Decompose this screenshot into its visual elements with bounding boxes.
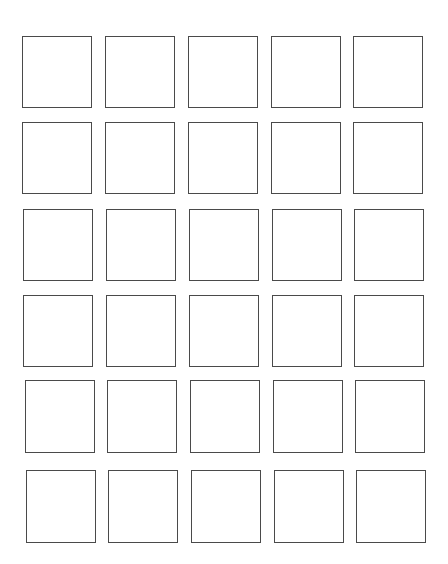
grid-cell [105,36,175,108]
grid-cell [188,122,258,194]
grid-cell [273,380,343,453]
grid-cell [353,122,423,194]
square-grid [0,0,448,564]
grid-cell [354,295,424,367]
grid-cell [22,36,92,108]
grid-cell [274,470,344,543]
grid-cell [107,380,177,453]
grid-cell [356,470,426,543]
grid-cell [189,209,259,281]
grid-cell [23,295,93,367]
grid-cell [25,380,95,453]
grid-cell [355,380,425,453]
grid-cell [354,209,424,281]
grid-cell [271,36,341,108]
grid-cell [23,209,93,281]
grid-cell [188,36,258,108]
grid-cell [353,36,423,108]
grid-cell [191,470,261,543]
grid-cell [22,122,92,194]
grid-cell [272,295,342,367]
grid-cell [190,380,260,453]
grid-cell [105,122,175,194]
grid-cell [272,209,342,281]
grid-cell [271,122,341,194]
grid-cell [106,209,176,281]
grid-cell [189,295,259,367]
grid-cell [106,295,176,367]
grid-cell [108,470,178,543]
grid-cell [26,470,96,543]
